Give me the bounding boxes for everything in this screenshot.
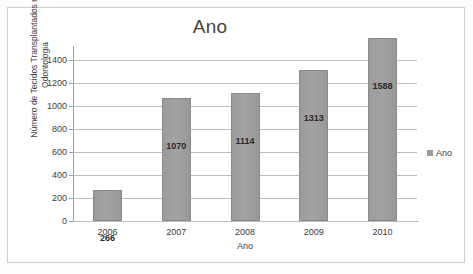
bar-value-label: 1588 bbox=[361, 81, 405, 91]
x-axis-tick-label: 2010 bbox=[353, 227, 413, 237]
y-axis-tick-mark bbox=[69, 175, 73, 176]
y-axis-tick-label: 400 bbox=[27, 170, 67, 180]
x-axis-tick-label: 2009 bbox=[284, 227, 344, 237]
y-axis-tick-mark bbox=[69, 106, 73, 107]
plot-area: 2661070111413131588 bbox=[73, 46, 417, 221]
chart-legend[interactable]: Ano bbox=[427, 148, 452, 158]
chart-figure: Ano Número de Tecidos Transplantados na … bbox=[0, 0, 473, 274]
bar[interactable] bbox=[299, 70, 328, 221]
x-axis-tick-label: 2006 bbox=[77, 227, 137, 237]
x-axis-tick-label: 2007 bbox=[146, 227, 206, 237]
y-axis-tick-mark bbox=[69, 83, 73, 84]
y-axis-tick-mark bbox=[69, 60, 73, 61]
y-axis-tick-label: 800 bbox=[27, 124, 67, 134]
legend-label: Ano bbox=[436, 148, 452, 158]
y-axis-tick-mark bbox=[69, 198, 73, 199]
bar[interactable] bbox=[162, 98, 191, 221]
y-axis-tick-label: 0 bbox=[27, 216, 67, 226]
x-axis-tick-label: 2008 bbox=[215, 227, 275, 237]
x-axis-title: Ano bbox=[73, 241, 417, 251]
y-axis-tick-label: 1400 bbox=[27, 55, 67, 65]
y-axis-tick-mark bbox=[69, 221, 73, 222]
bar[interactable] bbox=[93, 190, 122, 221]
y-axis-tick-label: 1200 bbox=[27, 78, 67, 88]
y-axis-tick-label: 200 bbox=[27, 193, 67, 203]
bar-value-label: 1114 bbox=[223, 136, 267, 146]
y-axis-tick-label: 600 bbox=[27, 147, 67, 157]
bar-value-label: 1313 bbox=[292, 113, 336, 123]
y-axis-tick-mark bbox=[69, 152, 73, 153]
gridline bbox=[73, 60, 417, 61]
y-axis-tick-mark bbox=[69, 129, 73, 130]
y-axis-tick-label: 1000 bbox=[27, 101, 67, 111]
legend-square-marker-icon bbox=[427, 150, 433, 156]
gridline bbox=[73, 221, 417, 222]
bar[interactable] bbox=[231, 93, 260, 221]
bar[interactable] bbox=[368, 38, 397, 221]
y-axis-tick-labels: 0200400600800100012001400 bbox=[22, 0, 67, 274]
bar-value-label: 1070 bbox=[154, 141, 198, 151]
